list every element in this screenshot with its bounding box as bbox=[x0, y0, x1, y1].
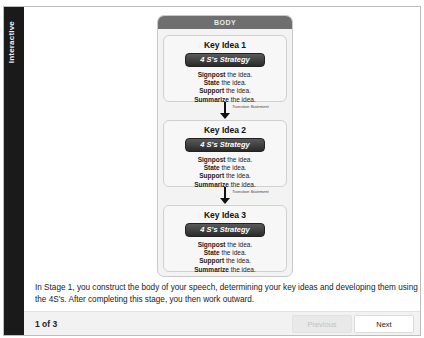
transition-label: Transition Statement bbox=[232, 189, 269, 194]
step-signpost: Signpost the idea. bbox=[164, 156, 286, 164]
transition-label: Transition Statement bbox=[232, 104, 269, 109]
transition-connector-1: Transition Statement bbox=[220, 102, 290, 120]
next-button[interactable]: Next bbox=[354, 315, 414, 333]
key-idea-box-3: Key Idea 3 4 S's Strategy Signpost the i… bbox=[163, 205, 287, 272]
step-signpost: Signpost the idea. bbox=[164, 241, 286, 249]
step-support: Support the idea. bbox=[164, 172, 286, 180]
previous-button[interactable]: Previous bbox=[292, 315, 352, 333]
content-area: BODY Key Idea 1 4 S's Strategy Signpost … bbox=[24, 7, 420, 335]
arrow-head-icon bbox=[220, 198, 230, 204]
sidebar-label: Interactive bbox=[7, 21, 16, 63]
stage-description: In Stage 1, you construct the body of yo… bbox=[35, 282, 420, 305]
step-state: State the idea. bbox=[164, 164, 286, 172]
step-state: State the idea. bbox=[164, 249, 286, 257]
strategy-badge: 4 S's Strategy bbox=[185, 138, 265, 152]
step-state: State the idea. bbox=[164, 79, 286, 87]
body-diagram: BODY Key Idea 1 4 S's Strategy Signpost … bbox=[157, 15, 293, 277]
key-idea-title: Key Idea 2 bbox=[164, 125, 286, 135]
strategy-badge: 4 S's Strategy bbox=[185, 223, 265, 237]
page-indicator: 1 of 3 bbox=[35, 319, 57, 329]
key-idea-box-2: Key Idea 2 4 S's Strategy Signpost the i… bbox=[163, 120, 287, 187]
key-idea-title: Key Idea 1 bbox=[164, 40, 286, 50]
step-support: Support the idea. bbox=[164, 87, 286, 95]
strategy-badge: 4 S's Strategy bbox=[185, 53, 265, 67]
navigation-footer: 1 of 3 Previous Next bbox=[24, 311, 420, 335]
arrow-head-icon bbox=[220, 113, 230, 119]
key-idea-box-1: Key Idea 1 4 S's Strategy Signpost the i… bbox=[163, 35, 287, 102]
step-support: Support the idea. bbox=[164, 257, 286, 265]
step-signpost: Signpost the idea. bbox=[164, 71, 286, 79]
key-idea-title: Key Idea 3 bbox=[164, 210, 286, 220]
sidebar: Interactive bbox=[4, 7, 24, 335]
interactive-panel: Interactive BODY Key Idea 1 4 S's Strate… bbox=[3, 6, 421, 336]
transition-connector-2: Transition Statement bbox=[220, 187, 290, 205]
diagram-header: BODY bbox=[158, 16, 292, 29]
step-summarize: Summarize the idea. bbox=[164, 266, 286, 274]
